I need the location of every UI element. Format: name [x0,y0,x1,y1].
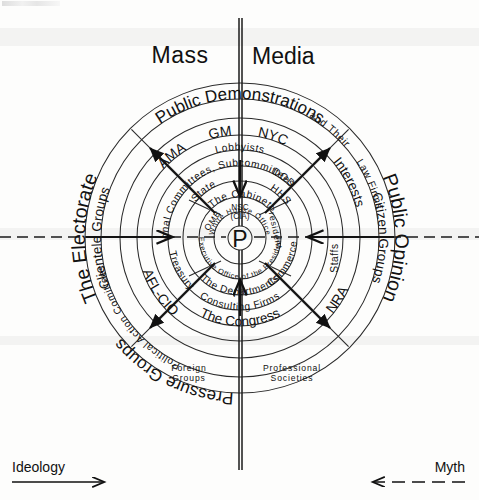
label-nra: NRA [322,283,351,316]
label-public-demonstrations: Public Demonstrations [152,84,328,128]
label-president-core: P [232,226,247,252]
concentric-circles-diagram: Mass Public Demonstrations The Electorat… [0,0,479,500]
label-ama: AMA [154,139,189,172]
arrow-outward-top-right [265,148,330,213]
label-gm: GM [207,122,233,142]
label-mass-media-right: Media [252,43,315,70]
footer-label-ideology: Ideology [12,459,65,475]
label-foreign-groups-line2: Groups [172,373,206,383]
label-staffs-text: Staffs [329,243,340,272]
label-lobbyists: Lobbyists [214,141,266,155]
label-professional-societies-line1: Professional [263,363,321,373]
label-professional-societies-line2: Societies [271,373,314,383]
scan-artifact [2,1,60,6]
label-foreign-groups-line1: Foreign [171,363,206,373]
footer-label-myth: Myth [435,459,465,475]
label-mass-media-left: Mass [152,42,209,68]
label-treasury: Treasury [167,250,197,292]
diagram-canvas: Mass Public Demonstrations The Electorat… [0,0,479,500]
